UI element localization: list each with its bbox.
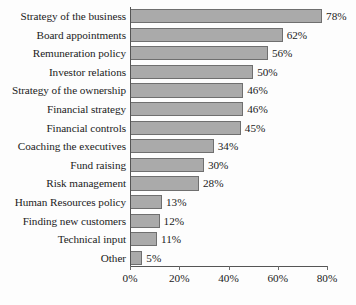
bar-value-label: 12% bbox=[160, 212, 185, 231]
category-label: Remuneration policy bbox=[0, 44, 126, 63]
category-label: Other bbox=[0, 249, 126, 268]
bar-value-label: 30% bbox=[204, 156, 229, 175]
bar-track: 12% bbox=[130, 212, 356, 231]
bar-value-label: 45% bbox=[241, 119, 266, 138]
plot-area: Strategy of the business78%Board appoint… bbox=[0, 0, 356, 305]
category-label: Strategy of the ownership bbox=[0, 81, 126, 100]
bar-track: 28% bbox=[130, 174, 356, 193]
bar-value-label: 28% bbox=[199, 174, 224, 193]
category-label: Human Resources policy bbox=[0, 193, 126, 212]
x-tick bbox=[130, 266, 131, 270]
x-tick bbox=[229, 266, 230, 270]
bar bbox=[130, 121, 241, 135]
category-label: Fund raising bbox=[0, 156, 126, 175]
category-label: Finding new customers bbox=[0, 212, 126, 231]
category-label: Coaching the executives bbox=[0, 137, 126, 156]
bar-row: Investor relations50% bbox=[0, 63, 356, 82]
bar bbox=[130, 232, 157, 246]
bar-row: Human Resources policy13% bbox=[0, 193, 356, 212]
category-label: Board appointments bbox=[0, 26, 126, 45]
bar-track: 46% bbox=[130, 100, 356, 119]
bar-value-label: 50% bbox=[253, 63, 278, 82]
bar-track: 50% bbox=[130, 63, 356, 82]
x-tick-label: 40% bbox=[218, 272, 239, 284]
bar bbox=[130, 139, 214, 153]
bar-track: 46% bbox=[130, 81, 356, 100]
x-tick bbox=[179, 266, 180, 270]
bar bbox=[130, 158, 204, 172]
category-label: Financial strategy bbox=[0, 100, 126, 119]
bar-rows: Strategy of the business78%Board appoint… bbox=[0, 7, 356, 267]
bar-track: 13% bbox=[130, 193, 356, 212]
bar-row: Financial strategy46% bbox=[0, 100, 356, 119]
bar-row: Fund raising30% bbox=[0, 156, 356, 175]
category-label: Financial controls bbox=[0, 119, 126, 138]
x-tick bbox=[327, 266, 328, 270]
y-axis-line bbox=[130, 7, 131, 266]
bar-value-label: 46% bbox=[243, 100, 268, 119]
bar-value-label: 13% bbox=[162, 193, 187, 212]
bar-row: Remuneration policy56% bbox=[0, 44, 356, 63]
x-tick-label: 60% bbox=[267, 272, 288, 284]
bar bbox=[130, 28, 283, 42]
bar bbox=[130, 195, 162, 209]
bar-track: 45% bbox=[130, 119, 356, 138]
x-tick bbox=[278, 266, 279, 270]
bar bbox=[130, 65, 253, 79]
bar-chart: Strategy of the business78%Board appoint… bbox=[0, 0, 356, 305]
bar bbox=[130, 214, 160, 228]
bar-value-label: 34% bbox=[214, 137, 239, 156]
bar-track: 56% bbox=[130, 44, 356, 63]
category-label: Strategy of the business bbox=[0, 7, 126, 26]
x-tick-label: 20% bbox=[169, 272, 190, 284]
bar-row: Coaching the executives34% bbox=[0, 137, 356, 156]
bar-track: 11% bbox=[130, 230, 356, 249]
bar-value-label: 78% bbox=[322, 7, 347, 26]
category-label: Technical input bbox=[0, 230, 126, 249]
bar-row: Technical input11% bbox=[0, 230, 356, 249]
x-tick-label: 0% bbox=[123, 272, 138, 284]
bar-track: 34% bbox=[130, 137, 356, 156]
bar bbox=[130, 102, 243, 116]
category-label: Risk management bbox=[0, 174, 126, 193]
bar bbox=[130, 9, 322, 23]
bar-row: Strategy of the ownership46% bbox=[0, 81, 356, 100]
bar-row: Finding new customers12% bbox=[0, 212, 356, 231]
x-tick-label: 80% bbox=[317, 272, 338, 284]
bar-row: Strategy of the business78% bbox=[0, 7, 356, 26]
bar-value-label: 46% bbox=[243, 81, 268, 100]
bar bbox=[130, 46, 268, 60]
bar-row: Financial controls45% bbox=[0, 119, 356, 138]
bar-track: 78% bbox=[130, 7, 356, 26]
bar-track: 62% bbox=[130, 26, 356, 45]
bar bbox=[130, 83, 243, 97]
bar-value-label: 62% bbox=[283, 26, 308, 45]
bar-row: Risk management28% bbox=[0, 174, 356, 193]
bar-row: Board appointments62% bbox=[0, 26, 356, 45]
bar bbox=[130, 176, 199, 190]
bar bbox=[130, 251, 142, 265]
bar-track: 30% bbox=[130, 156, 356, 175]
category-label: Investor relations bbox=[0, 63, 126, 82]
bar-value-label: 11% bbox=[157, 230, 181, 249]
bar-value-label: 56% bbox=[268, 44, 293, 63]
